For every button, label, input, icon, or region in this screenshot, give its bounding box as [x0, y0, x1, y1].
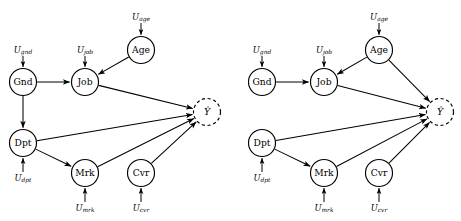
node-cvr[interactable]: Cvr	[128, 160, 155, 187]
node-age[interactable]: Age	[366, 37, 393, 64]
noise-label-u_gnd: Ugnd	[14, 45, 33, 56]
noise-label-subscript: mrk	[322, 207, 334, 213]
node-age[interactable]: Age	[128, 37, 155, 64]
noise-label-u_cvr: Ucvr	[133, 203, 151, 213]
node-gnd[interactable]: Gnd	[249, 69, 276, 96]
edge-dpt-to-yhat	[276, 115, 426, 141]
noise-label-u_mrk: Umrk	[75, 203, 94, 213]
node-label-dpt: Dpt	[15, 137, 32, 148]
noise-label-u_age: Uage	[132, 12, 150, 23]
node-label-cvr: Cvr	[133, 167, 150, 178]
nodes-layer: GndJobAgeDptMrkCvrŶGndJobAgeDptMrkCvrŶ	[10, 37, 454, 187]
node-dpt[interactable]: Dpt	[249, 130, 276, 157]
noise-label-u_dpt: Udpt	[254, 173, 272, 184]
noise-label-subscript: cvr	[378, 207, 389, 213]
edge-dpt-to-mrk	[36, 149, 72, 166]
noise-label-u_mrk: Umrk	[314, 203, 333, 213]
node-cvr[interactable]: Cvr	[366, 160, 393, 187]
noise-label-subscript: age	[139, 16, 150, 23]
node-yhat[interactable]: Ŷ	[427, 99, 454, 126]
noise-label-u_dpt: Udpt	[15, 173, 33, 184]
noise-label-subscript: gnd	[260, 49, 272, 56]
node-label-mrk: Mrk	[314, 167, 334, 178]
edge-age-to-job	[337, 57, 367, 74]
node-label-gnd: Gnd	[252, 76, 271, 87]
edge-job-to-yhat	[99, 85, 193, 108]
node-job[interactable]: Job	[311, 69, 338, 96]
node-label-gnd: Gnd	[13, 76, 32, 87]
dag-canvas: GndJobAgeDptMrkCvrŶGndJobAgeDptMrkCvrŶ U…	[0, 0, 461, 221]
node-label-yhat: Ŷ	[437, 106, 444, 117]
noise-label-u_gnd: Ugnd	[253, 45, 272, 56]
node-label-mrk: Mrk	[75, 167, 95, 178]
noise-label-subscript: age	[377, 16, 388, 23]
edge-job-to-yhat	[338, 86, 426, 109]
node-label-yhat: Ŷ	[204, 106, 211, 117]
node-gnd[interactable]: Gnd	[10, 69, 37, 96]
node-label-age: Age	[369, 44, 388, 55]
node-yhat[interactable]: Ŷ	[194, 99, 221, 126]
edge-age-to-job	[98, 57, 128, 74]
node-mrk[interactable]: Mrk	[311, 160, 338, 187]
noise-label-subscript: dpt	[261, 177, 272, 184]
node-label-job: Job	[315, 76, 331, 87]
noise-label-u_job: Ujob	[316, 45, 332, 56]
noise-label-u_age: Uage	[370, 12, 388, 23]
noise-label-subscript: gnd	[21, 49, 33, 56]
noise-label-u_job: Ujob	[77, 45, 93, 56]
node-mrk[interactable]: Mrk	[72, 160, 99, 187]
node-job[interactable]: Job	[72, 69, 99, 96]
edge-dpt-to-yhat	[37, 114, 193, 140]
noise-label-subscript: dpt	[22, 177, 33, 184]
node-label-dpt: Dpt	[254, 137, 271, 148]
node-label-cvr: Cvr	[371, 167, 388, 178]
causal-dag-figure: GndJobAgeDptMrkCvrŶGndJobAgeDptMrkCvrŶ U…	[0, 0, 461, 221]
edge-dpt-to-mrk	[275, 149, 311, 166]
node-label-age: Age	[131, 44, 150, 55]
noise-label-subscript: cvr	[140, 207, 151, 213]
node-label-job: Job	[76, 76, 92, 87]
edge-age-to-yhat	[389, 60, 430, 101]
noise-label-subscript: mrk	[83, 207, 95, 213]
edge-mrk-to-yhat	[98, 119, 194, 167]
noise-label-subscript: job	[321, 49, 332, 56]
node-dpt[interactable]: Dpt	[10, 130, 37, 157]
noise-label-subscript: job	[82, 49, 93, 56]
noise-label-u_cvr: Ucvr	[371, 203, 389, 213]
